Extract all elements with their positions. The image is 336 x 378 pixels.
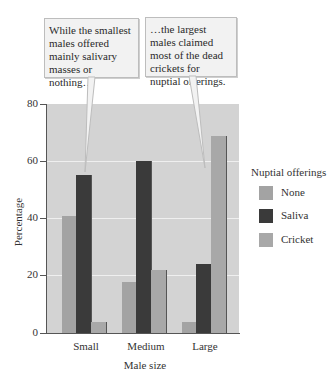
x-category-large: Large (180, 340, 230, 352)
y-tick-label-60: 60 (4, 154, 38, 166)
x-category-small: Small (61, 340, 111, 352)
y-tick-label-20: 20 (4, 268, 38, 280)
y-tick-40 (40, 218, 46, 219)
y-axis-title: Percentage (12, 182, 24, 262)
y-tick-20 (40, 275, 46, 276)
legend-label-none: None (281, 186, 305, 198)
legend-label-cricket: Cricket (281, 233, 313, 245)
y-tick-0 (40, 333, 46, 334)
y-tick-80 (40, 104, 46, 105)
legend-swatch-cricket (259, 233, 273, 247)
y-axis (46, 104, 47, 334)
x-category-medium: Medium (121, 340, 171, 352)
y-tick-label-80: 80 (4, 97, 38, 109)
x-axis (46, 333, 240, 334)
legend-title: Nuptial offerings (251, 166, 326, 178)
legend-swatch-none (259, 186, 273, 200)
x-axis-title: Male size (100, 359, 190, 371)
y-tick-60 (40, 161, 46, 162)
legend-swatch-saliva (259, 209, 273, 223)
legend-label-saliva: Saliva (281, 209, 309, 221)
y-tick-label-0: 0 (4, 326, 38, 338)
